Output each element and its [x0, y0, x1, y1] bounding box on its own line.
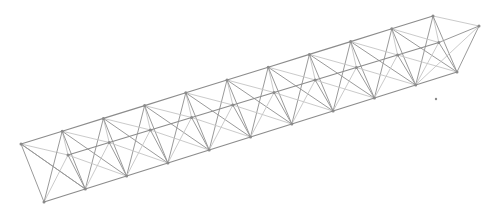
top-strut [433, 16, 439, 43]
top-front-chord [227, 67, 268, 80]
joint-node [456, 71, 459, 74]
top-diagonal [268, 67, 315, 80]
truss-diagram [0, 0, 497, 217]
end-post [457, 26, 479, 72]
front-diagonal [168, 93, 186, 163]
joint-node [414, 84, 417, 87]
joint-node [478, 25, 481, 28]
top-diagonal [145, 106, 192, 118]
front-diagonal [44, 131, 62, 202]
joint-node [84, 188, 87, 191]
front-diagonal [416, 16, 433, 85]
top-front-chord [145, 93, 186, 106]
end-brace [433, 16, 479, 26]
joint-node [143, 104, 146, 107]
joint-node [43, 201, 46, 204]
front-diagonal [292, 54, 310, 124]
end-diagonal [416, 26, 479, 85]
front-diagonal [374, 29, 391, 98]
top-diagonal [227, 80, 274, 93]
joint-node [108, 141, 111, 144]
top-front-chord [268, 54, 309, 67]
bottom-chord [44, 189, 85, 202]
joint-node [432, 15, 435, 18]
joint-node [226, 79, 229, 82]
joint-node [208, 149, 211, 152]
front-diagonal [209, 80, 227, 150]
front-diagonal [85, 118, 103, 189]
joint-node [290, 123, 293, 126]
top-front-chord [62, 118, 103, 131]
joint-node [231, 104, 234, 107]
top-diagonal [62, 131, 109, 142]
top-diagonal [103, 118, 150, 130]
joint-node [332, 110, 335, 113]
top-back-chord [68, 143, 109, 156]
joint-node [437, 41, 440, 44]
top-front-chord [309, 42, 350, 55]
joint-node [355, 66, 358, 69]
top-back-chord [109, 130, 150, 143]
end-brace [439, 26, 479, 43]
bottom-chord [85, 176, 126, 189]
end-post [21, 144, 44, 202]
top-diagonal [186, 93, 233, 105]
joint-node [102, 117, 105, 120]
joint-node [249, 136, 252, 139]
joint-node [67, 154, 70, 157]
joint-node [273, 91, 276, 94]
top-diagonal [351, 42, 398, 55]
top-front-chord [392, 16, 433, 29]
joint-node [390, 27, 393, 30]
joint-node [314, 79, 317, 82]
joint-node [166, 162, 169, 165]
top-front-chord [351, 29, 392, 42]
joint-node [396, 54, 399, 57]
joint-node [267, 66, 270, 69]
top-back-chord [274, 80, 315, 93]
front-diagonal [333, 42, 351, 111]
top-diagonal [309, 54, 356, 67]
joint-node [20, 143, 23, 146]
top-front-chord [103, 106, 144, 119]
joint-node [184, 91, 187, 94]
top-back-chord [192, 105, 233, 118]
top-back-chord [233, 93, 274, 106]
top-strut [392, 29, 398, 55]
front-diagonal [251, 67, 269, 137]
joint-node [308, 53, 311, 56]
stray-point [435, 98, 437, 100]
joint-node [61, 130, 64, 133]
joint-node [349, 40, 352, 43]
top-front-chord [186, 80, 227, 93]
joint-node [149, 129, 152, 132]
top-front-chord [21, 131, 62, 144]
top-back-chord [150, 118, 191, 131]
top-diagonal [392, 29, 439, 43]
joint-node [373, 97, 376, 100]
truss-web-members [21, 16, 479, 202]
joint-node [190, 116, 193, 119]
front-diagonal [127, 106, 145, 176]
joint-node [125, 175, 128, 178]
